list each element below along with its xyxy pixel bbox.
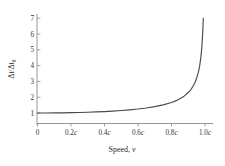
x-tick-label-0.6c: 0.6c: [132, 129, 145, 137]
x-tick-label-0.2c-number: 0.2: [65, 129, 74, 137]
x-tick-label-1.0c-unit: c: [208, 129, 212, 137]
y-tick-label-2: 2: [30, 94, 34, 102]
x-tick-label-0-number: 0: [36, 129, 40, 137]
y-tick-label-1: 1: [30, 110, 34, 118]
x-tick-label-0.4c: 0.4c: [98, 129, 111, 137]
x-tick-marks: [38, 124, 206, 127]
x-tick-label-0.2c-unit: c: [74, 129, 78, 137]
y-axis-title: Δt/Δt0: [7, 59, 17, 78]
y-tick-label-4: 4: [30, 62, 34, 70]
x-tick-labels: 0 0.2c 0.4c 0.6c 0.8c 1.0c: [36, 129, 212, 137]
x-axis-title: Speed, v: [108, 145, 136, 154]
y-tick-label-6: 6: [30, 31, 34, 39]
axes-group: [37, 14, 213, 125]
x-axis-title-text: Speed,: [108, 145, 130, 154]
x-tick-label-1.0c-number: 1.0: [199, 129, 208, 137]
y-tick-label-5: 5: [30, 46, 34, 54]
chart-figure: 7 6 5 4 3 2 1 0 0.2c 0.4c 0.6c 0.8c: [0, 0, 225, 166]
x-tick-label-0.8c: 0.8c: [165, 129, 178, 137]
x-tick-label-0.6c-unit: c: [141, 129, 145, 137]
y-tick-label-3: 3: [30, 78, 34, 86]
x-tick-label-1.0c: 1.0c: [199, 129, 212, 137]
data-curve-time-dilation: [38, 18, 204, 113]
x-tick-label-0.4c-unit: c: [107, 129, 111, 137]
x-tick-label-0: 0: [36, 129, 40, 137]
y-axis-title-subscript: 0: [11, 59, 17, 62]
y-tick-labels: 7 6 5 4 3 2 1: [30, 15, 34, 118]
time-dilation-plot: 7 6 5 4 3 2 1 0 0.2c 0.4c 0.6c 0.8c: [0, 0, 225, 166]
x-tick-label-0.4c-number: 0.4: [98, 129, 107, 137]
x-tick-label-0.8c-number: 0.8: [165, 129, 174, 137]
x-tick-label-0.8c-unit: c: [174, 129, 178, 137]
x-tick-label-0.6c-number: 0.6: [132, 129, 141, 137]
y-tick-marks: [37, 18, 40, 113]
y-axis-title-group: Δt/Δt0: [7, 59, 17, 78]
x-axis-title-variable: v: [132, 145, 136, 154]
y-tick-label-7: 7: [30, 15, 34, 23]
x-tick-label-0.2c: 0.2c: [65, 129, 78, 137]
